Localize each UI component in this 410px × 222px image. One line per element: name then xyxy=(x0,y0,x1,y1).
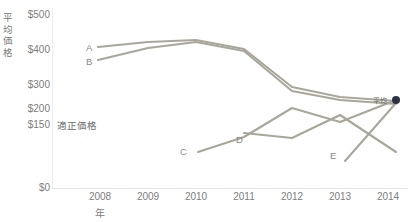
x-tick-2014: 2014 xyxy=(377,191,399,202)
average-marker-dot xyxy=(392,96,400,104)
x-tick-2012: 2012 xyxy=(281,191,303,202)
x-axis-title: 年 xyxy=(95,205,105,220)
plot-area xyxy=(0,0,410,222)
series-label-a: A xyxy=(86,42,92,53)
x-tick-2010: 2010 xyxy=(185,191,207,202)
series-label-b: B xyxy=(86,56,92,67)
series-label-d: D xyxy=(236,134,243,145)
x-tick-2013: 2013 xyxy=(329,191,351,202)
x-tick-2009: 2009 xyxy=(137,191,159,202)
x-tick-2011: 2011 xyxy=(233,191,255,202)
series-label-e: E xyxy=(330,150,336,161)
series-label-c: C xyxy=(180,146,187,157)
price-trend-chart: 平 均 価 格 $500 $400 $300 $200 $150 $0 xyxy=(0,0,410,222)
series-line-e xyxy=(345,103,396,161)
average-annotation: 平均 xyxy=(373,95,386,105)
series-line-c xyxy=(198,100,396,152)
series-line-d xyxy=(244,115,396,152)
x-tick-2008: 2008 xyxy=(89,191,111,202)
fair-price-annotation: 適正価格 xyxy=(57,118,97,132)
